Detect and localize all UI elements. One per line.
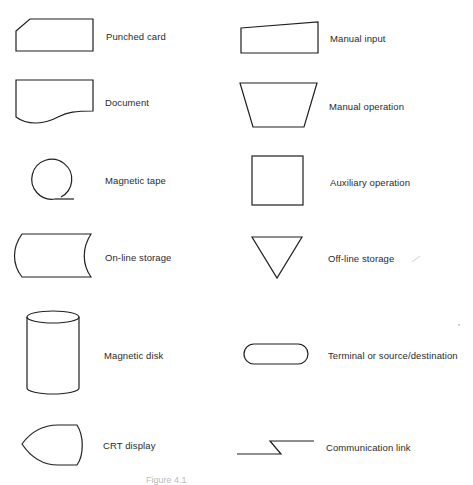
- stray-mark: [412, 256, 420, 262]
- label-on-line-storage: On-line storage: [105, 252, 171, 263]
- label-magnetic-disk: Magnetic disk: [104, 350, 163, 361]
- document-symbol: [16, 80, 93, 123]
- terminal-symbol: [244, 344, 308, 364]
- on-line-storage-symbol: [15, 234, 92, 277]
- magnetic-disk-symbol: [27, 311, 79, 394]
- label-manual-input: Manual input: [330, 33, 386, 44]
- manual-input-symbol: [241, 22, 318, 53]
- figure-caption: Figure 4.1: [146, 475, 187, 485]
- label-manual-operation: Manual operation: [329, 101, 404, 112]
- magnetic-tape-symbol: [32, 159, 74, 199]
- punched-card-symbol: [16, 19, 93, 51]
- label-document: Document: [105, 97, 149, 108]
- manual-operation-symbol: [240, 83, 317, 127]
- stray-dot: [458, 324, 460, 326]
- label-communication-link: Communication link: [326, 442, 411, 453]
- communication-link-symbol: [237, 441, 314, 454]
- label-crt-display: CRT display: [103, 440, 156, 451]
- label-punched-card: Punched card: [106, 31, 166, 42]
- auxiliary-operation-symbol: [252, 156, 303, 205]
- crt-display-symbol: [22, 425, 82, 465]
- label-auxiliary-operation: Auxiliary operation: [330, 177, 410, 188]
- off-line-storage-symbol: [252, 237, 302, 278]
- label-off-line-storage: Off-line storage: [328, 253, 394, 264]
- label-magnetic-tape: Magnetic tape: [105, 175, 166, 186]
- label-terminal: Terminal or source/destination: [328, 350, 458, 361]
